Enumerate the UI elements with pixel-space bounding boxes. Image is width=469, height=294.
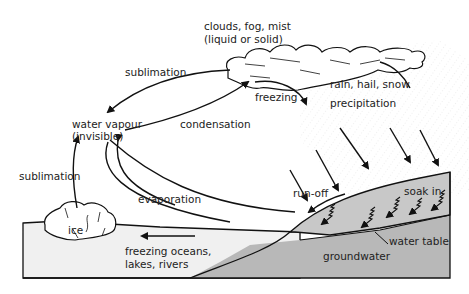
label-ice: ice [68,224,83,237]
label-evaporation: evaporation [138,193,201,206]
label-water-vapour-sub: (invisible) [72,130,123,143]
label-freezing-oceans-sub-text: lakes, rivers [125,258,188,270]
label-clouds: clouds, fog, mist [204,20,291,33]
label-groundwater-text: groundwater [323,250,390,262]
label-freezing-oceans-text: freezing oceans, [125,245,211,257]
label-condensation-text: condensation [180,118,251,130]
label-soak-in-text: soak in [404,185,441,197]
label-rain-text: rain, hail, snow [330,78,410,90]
label-rain: rain, hail, snow [330,78,410,91]
label-freezing: freezing [255,91,297,104]
label-clouds-sub-text: (liquid or solid) [204,33,283,45]
label-soak-in: soak in [404,185,441,198]
label-water-vapour-sub-text: (invisible) [72,130,123,142]
label-precipitation: precipitation [330,97,396,110]
label-freezing-oceans-sub: lakes, rivers [125,258,188,271]
label-water-table: water table [389,235,449,248]
label-sublimation-left: sublimation [19,170,80,183]
label-water-table-text: water table [389,235,449,247]
label-sublimation-top: sublimation [125,66,186,79]
label-freezing-oceans: freezing oceans, [125,245,211,258]
label-water-vapour-text: water vapour [72,118,142,130]
label-sublimation-top-text: sublimation [125,66,186,78]
label-groundwater: groundwater [323,250,390,263]
label-freezing-text: freezing [255,91,297,103]
label-precipitation-text: precipitation [330,97,396,109]
label-clouds-text: clouds, fog, mist [204,20,291,32]
label-evaporation-text: evaporation [138,193,201,205]
evaporation-arrow-2 [106,142,230,222]
label-ice-text: ice [68,224,83,236]
label-clouds-sub: (liquid or solid) [204,33,283,46]
label-run-off: run-off [293,187,328,200]
label-condensation: condensation [180,118,251,131]
label-run-off-text: run-off [293,187,328,199]
water-cycle-diagram: clouds, fog, mist (liquid or solid) subl… [0,0,469,294]
label-sublimation-left-text: sublimation [19,170,80,182]
